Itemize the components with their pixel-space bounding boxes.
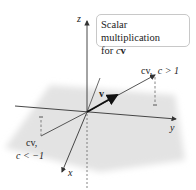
cv-positive-label-cv: cv, [141,65,152,76]
y-axis-label: y [169,122,175,133]
z-axis-label: z [76,13,81,24]
cv-positive-label: cv, c > 1 [141,65,179,76]
cv-negative-label-cv: cv, [26,137,37,148]
cv-negative-label-condition: c < −1 [16,150,44,161]
cv-positive-label-condition: c > 1 [158,65,179,76]
x-axis-label: x [67,167,73,178]
caption-line-1: Scalar multiplication [101,18,185,44]
caption-box: Scalar multiplication for cv [96,14,190,47]
caption-v: v [121,45,126,56]
v-label: v [99,88,104,99]
caption-for: for [101,45,116,56]
caption-line-2: for cv [101,44,185,57]
